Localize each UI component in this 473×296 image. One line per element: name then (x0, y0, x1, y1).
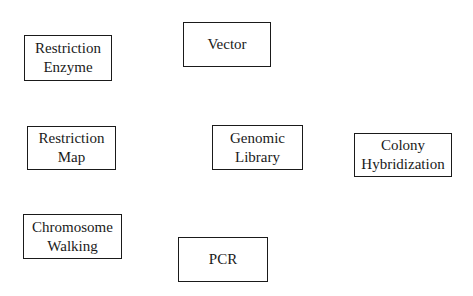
node-label-line: Restriction (35, 39, 101, 58)
node-label-line: Restriction (39, 129, 105, 148)
node-restriction-map: Restriction Map (27, 126, 116, 170)
node-label-line: PCR (209, 250, 237, 269)
node-label-line: Walking (47, 237, 97, 256)
node-label-line: Colony (381, 136, 425, 155)
node-label-line: Library (235, 148, 280, 167)
node-vector: Vector (183, 22, 271, 67)
node-label-line: Genomic (230, 129, 285, 148)
node-label-line: Map (58, 148, 86, 167)
node-genomic-library: Genomic Library (212, 125, 303, 170)
node-pcr: PCR (178, 237, 268, 282)
node-label-line: Hybridization (361, 155, 444, 174)
node-chromosome-walking: Chromosome Walking (23, 214, 122, 259)
node-label-line: Vector (207, 35, 246, 54)
node-label-line: Chromosome (32, 218, 113, 237)
node-colony-hybridization: Colony Hybridization (354, 133, 452, 177)
node-restriction-enzyme: Restriction Enzyme (24, 35, 112, 81)
node-label-line: Enzyme (43, 58, 92, 77)
